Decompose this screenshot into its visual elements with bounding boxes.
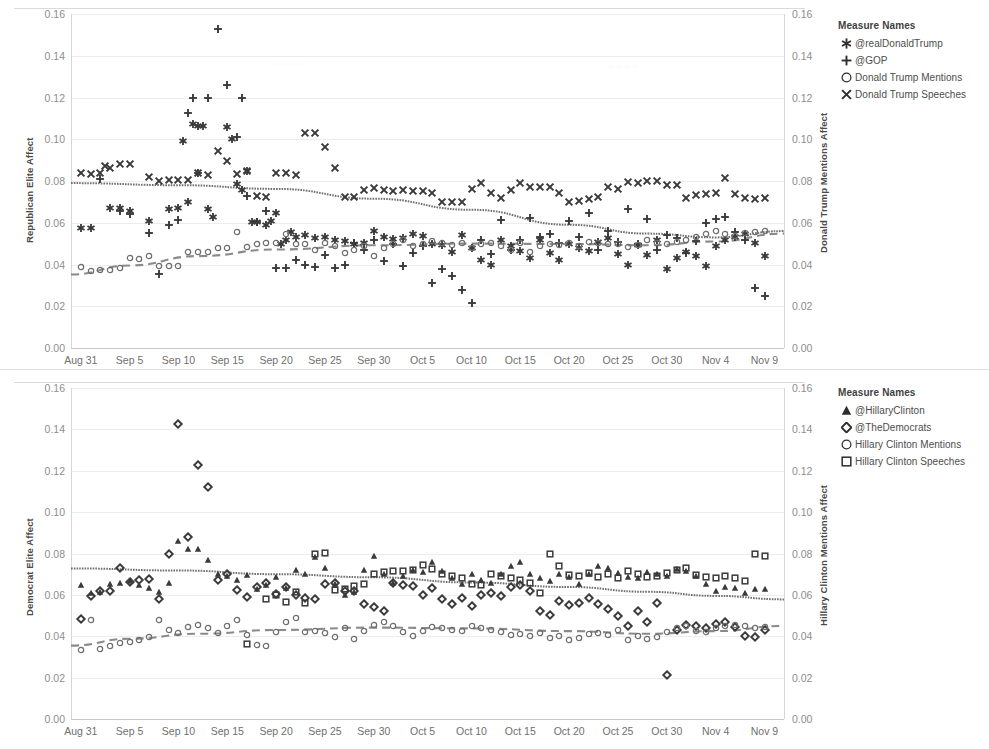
legend-item-circle[interactable]: Hillary Clinton Mentions bbox=[838, 436, 965, 453]
data-point-circle bbox=[126, 638, 134, 646]
data-point-circle bbox=[419, 240, 427, 248]
data-point-asterisk bbox=[555, 256, 564, 265]
data-point-circle bbox=[350, 636, 358, 644]
data-point-plus bbox=[467, 299, 476, 308]
legend-item-circle[interactable]: Donald Trump Mentions bbox=[838, 69, 966, 86]
data-point-asterisk bbox=[750, 238, 759, 247]
data-point-triangle bbox=[731, 584, 739, 592]
data-point-plus bbox=[369, 235, 378, 244]
data-point-cross bbox=[360, 186, 369, 195]
data-point-circle bbox=[282, 230, 290, 238]
data-point-circle bbox=[692, 627, 700, 635]
data-point-circle bbox=[663, 628, 671, 636]
data-point-plus bbox=[311, 262, 320, 271]
data-point-square bbox=[497, 572, 505, 580]
legend-item-plus[interactable]: @GOP bbox=[838, 52, 966, 69]
data-point-circle bbox=[253, 240, 261, 248]
data-point-square bbox=[243, 640, 251, 648]
square-icon bbox=[838, 456, 855, 467]
data-point-cross bbox=[233, 170, 242, 179]
data-point-plus bbox=[203, 93, 212, 102]
data-point-circle bbox=[292, 614, 300, 622]
data-point-circle bbox=[585, 238, 593, 246]
data-point-circle bbox=[136, 637, 144, 645]
data-point-circle bbox=[595, 629, 603, 637]
legend-item-label: @HillaryClinton bbox=[855, 405, 925, 416]
data-point-plus bbox=[174, 215, 183, 224]
data-point-circle bbox=[360, 627, 368, 635]
data-point-circle bbox=[565, 637, 573, 645]
data-point-circle bbox=[184, 249, 192, 257]
legend-item-diamond[interactable]: @TheDemocrats bbox=[838, 419, 965, 436]
data-point-triangle bbox=[165, 579, 173, 587]
data-point-square bbox=[370, 570, 378, 578]
data-point-cross bbox=[340, 192, 349, 201]
data-point-cross bbox=[731, 189, 740, 198]
data-point-asterisk bbox=[614, 250, 623, 259]
data-point-square bbox=[526, 579, 534, 587]
data-point-square bbox=[516, 576, 524, 584]
data-point-circle bbox=[731, 621, 739, 629]
data-point-diamond bbox=[545, 610, 554, 619]
data-point-triangle bbox=[575, 580, 583, 588]
data-point-cross bbox=[164, 176, 173, 185]
data-point-plus bbox=[320, 251, 329, 260]
data-point-cross bbox=[496, 193, 505, 202]
data-point-plus bbox=[291, 256, 300, 265]
data-point-cross bbox=[125, 160, 134, 169]
data-point-cross bbox=[174, 176, 183, 185]
data-point-cross bbox=[115, 160, 124, 169]
data-point-circle bbox=[311, 246, 319, 254]
data-point-square bbox=[594, 573, 602, 581]
data-point-circle bbox=[175, 262, 183, 270]
data-point-square bbox=[507, 574, 515, 582]
data-point-circle bbox=[624, 637, 632, 645]
data-point-circle bbox=[194, 248, 202, 256]
data-point-plus bbox=[750, 283, 759, 292]
democrat-clinton-panel: 0.000.000.020.020.040.040.060.060.080.08… bbox=[0, 374, 989, 749]
data-point-circle bbox=[526, 633, 534, 641]
data-point-plus bbox=[408, 249, 417, 258]
data-point-circle bbox=[438, 624, 446, 632]
data-point-circle bbox=[87, 616, 95, 624]
data-point-plus bbox=[164, 221, 173, 230]
data-point-circle bbox=[487, 239, 495, 247]
data-point-diamond bbox=[536, 607, 545, 616]
data-point-circle bbox=[331, 633, 339, 641]
data-point-asterisk bbox=[692, 252, 701, 261]
data-point-circle bbox=[165, 262, 173, 270]
data-point-circle bbox=[556, 633, 564, 641]
data-point-circle bbox=[126, 254, 134, 262]
legend-item-label: Hillary Clinton Mentions bbox=[855, 439, 961, 450]
data-point-asterisk bbox=[174, 204, 183, 213]
data-point-cross bbox=[721, 173, 730, 182]
data-point-cross bbox=[633, 179, 642, 188]
data-point-plus bbox=[330, 263, 339, 272]
data-point-circle bbox=[136, 256, 144, 264]
legend-item-square[interactable]: Hillary Clinton Speeches bbox=[838, 453, 965, 470]
data-point-circle bbox=[370, 252, 378, 260]
data-point-asterisk bbox=[760, 252, 769, 261]
data-point-square bbox=[272, 591, 280, 599]
data-point-cross bbox=[379, 186, 388, 195]
legend-item-asterisk[interactable]: @realDonaldTrump bbox=[838, 35, 966, 52]
data-point-asterisk bbox=[145, 216, 154, 225]
data-point-cross bbox=[692, 190, 701, 199]
data-point-square bbox=[399, 567, 407, 575]
data-point-triangle bbox=[594, 562, 602, 570]
data-point-diamond bbox=[506, 583, 515, 592]
data-point-diamond bbox=[575, 599, 584, 608]
data-point-circle bbox=[644, 636, 652, 644]
data-point-circle bbox=[263, 642, 271, 650]
data-point-diamond bbox=[409, 581, 418, 590]
legend-item-triangle[interactable]: @HillaryClinton bbox=[838, 402, 965, 419]
data-point-circle bbox=[106, 266, 114, 274]
data-point-circle bbox=[116, 264, 124, 272]
data-point-triangle bbox=[272, 573, 280, 581]
data-point-square bbox=[536, 589, 544, 597]
data-point-circle bbox=[360, 242, 368, 250]
data-point-asterisk bbox=[711, 241, 720, 250]
legend-item-label: Hillary Clinton Speeches bbox=[855, 456, 965, 467]
legend-item-label: @realDonaldTrump bbox=[855, 38, 943, 49]
legend-item-cross[interactable]: Donald Trump Speeches bbox=[838, 86, 966, 103]
